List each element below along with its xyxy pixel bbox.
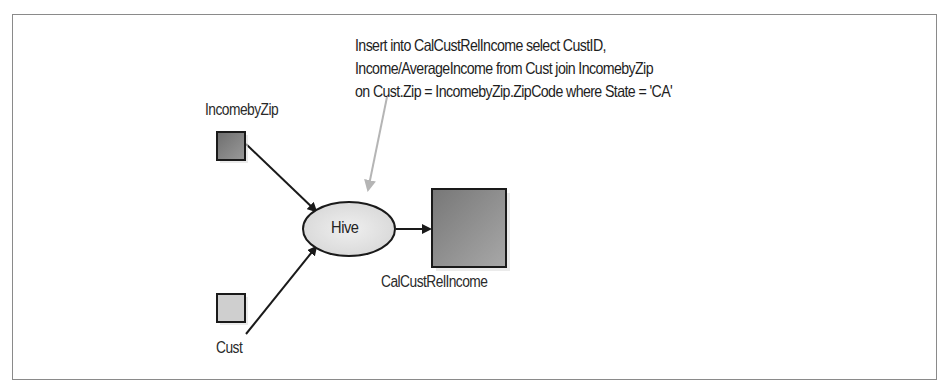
edge-cust-to-hive bbox=[246, 247, 316, 334]
label-cust: Cust bbox=[216, 339, 242, 357]
annotation-line: Income/AverageIncome from Cust join Inco… bbox=[355, 57, 672, 80]
node-incomebyzip bbox=[217, 132, 245, 160]
node-cust bbox=[217, 294, 245, 322]
annotation-line: Insert into CalCustRelIncome select Cust… bbox=[355, 34, 672, 57]
annotation-arrow bbox=[368, 97, 387, 190]
annotation-line: on Cust.Zip = IncomebyZip.ZipCode where … bbox=[355, 80, 672, 103]
edge-incomebyzip-to-hive bbox=[246, 144, 316, 211]
label-hive: Hive bbox=[331, 218, 359, 238]
annotation-text: Insert into CalCustRelIncome select Cust… bbox=[355, 34, 672, 103]
label-calcustrelincome: CalCustRelIncome bbox=[381, 273, 487, 291]
node-calcustrelincome bbox=[432, 189, 506, 267]
label-incomebyzip: IncomebyZip bbox=[205, 101, 278, 119]
